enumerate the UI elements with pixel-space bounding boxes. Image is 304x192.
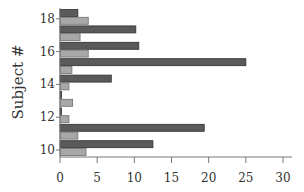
bar-light-subject-15 (60, 67, 72, 74)
bar-light-subject-16 (60, 50, 88, 57)
bar-dark-subject-18 (60, 10, 78, 17)
bar-light-subject-11 (60, 132, 78, 139)
y-tick-label: 12 (40, 110, 55, 124)
bar-light-subject-17 (60, 34, 80, 41)
x-tick-label: 10 (127, 171, 142, 185)
x-tick-label: 20 (201, 171, 216, 185)
x-tick-label: 0 (56, 171, 64, 185)
y-tick-label: 14 (40, 77, 56, 91)
bar-dark-subject-11 (60, 124, 204, 131)
y-axis-ticks: 1012141618 (40, 12, 60, 157)
horizontal-bar-chart: 051015202530 1012141618 Subject # (0, 0, 304, 192)
bar-dark-subject-15 (60, 59, 246, 66)
y-tick-label: 18 (40, 12, 55, 26)
bar-dark-subject-17 (60, 26, 136, 33)
y-tick-label: 16 (40, 45, 55, 59)
bar-dark-subject-10 (60, 141, 153, 148)
y-tick-label: 10 (40, 143, 55, 157)
x-tick-label: 5 (93, 171, 101, 185)
x-tick-label: 30 (275, 171, 290, 185)
bar-dark-subject-16 (60, 42, 139, 49)
bar-light-subject-10 (60, 149, 86, 156)
bars-group (60, 10, 246, 156)
bar-light-subject-14 (60, 83, 69, 90)
bar-dark-subject-14 (60, 75, 111, 82)
x-tick-label: 15 (164, 171, 179, 185)
x-axis-ticks: 051015202530 (56, 157, 290, 185)
bar-light-subject-13 (60, 99, 73, 106)
y-axis-label: Subject # (9, 45, 27, 120)
bar-light-subject-12 (60, 116, 69, 123)
bar-light-subject-18 (60, 17, 88, 24)
x-tick-label: 25 (238, 171, 253, 185)
